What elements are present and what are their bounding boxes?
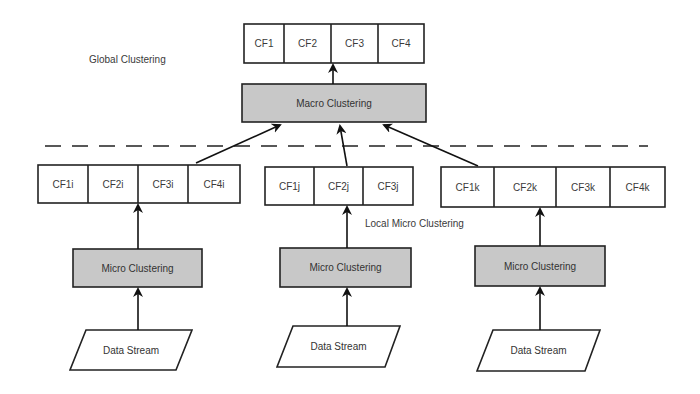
data-stream-label-j: Data Stream xyxy=(277,326,400,367)
local-cf-cell-j: CF1j xyxy=(265,167,314,205)
global-cf-cell: CF3 xyxy=(331,24,378,63)
local-cf-cell-k: CF2k xyxy=(494,167,556,207)
local-cf-cell-j: CF3j xyxy=(363,167,413,205)
local-cf-cell-j: CF2j xyxy=(314,167,363,205)
local-micro-clustering-label: Local Micro Clustering xyxy=(365,218,464,229)
micro-clustering-label-k: Micro Clustering xyxy=(475,246,605,286)
arrow-i-to-macro xyxy=(196,125,280,163)
data-stream-label-i: Data Stream xyxy=(70,330,192,370)
local-cf-cell-i: CF3i xyxy=(138,165,188,203)
macro-clustering-label: Macro Clustering xyxy=(242,84,426,122)
local-cf-cell-k: CF4k xyxy=(610,167,665,207)
global-cf-cell: CF4 xyxy=(378,24,424,63)
local-cf-cell-k: CF1k xyxy=(441,167,494,207)
local-cf-cell-k: CF3k xyxy=(556,167,610,207)
local-cf-cell-i: CF4i xyxy=(188,165,240,203)
local-cf-cell-i: CF2i xyxy=(88,165,138,203)
micro-clustering-label-i: Micro Clustering xyxy=(73,249,202,287)
global-cf-cell: CF2 xyxy=(284,24,331,63)
local-cf-cell-i: CF1i xyxy=(38,165,88,203)
micro-clustering-label-j: Micro Clustering xyxy=(280,248,411,287)
global-cf-cell: CF1 xyxy=(244,24,284,63)
data-stream-label-k: Data Stream xyxy=(477,330,600,371)
global-clustering-label: Global Clustering xyxy=(89,54,166,65)
